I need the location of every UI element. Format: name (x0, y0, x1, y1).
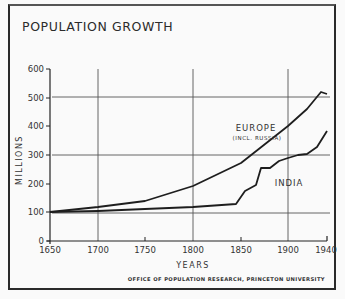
x-tick-label: 1940 (315, 245, 337, 255)
x-tick-label: 1750 (134, 245, 156, 255)
series-europe-line (50, 92, 327, 212)
grid-lines (52, 69, 330, 241)
europe-label: EUROPE (236, 123, 277, 133)
y-tick-label: 500 (28, 93, 44, 103)
x-tick-label: 1700 (87, 245, 109, 255)
x-tick-label: 1850 (230, 245, 252, 255)
y-tick-label: 400 (28, 121, 44, 131)
y-tick-label: 300 (28, 150, 44, 160)
series-india-line (50, 131, 327, 212)
y-tick-label: 200 (28, 179, 44, 189)
axes (47, 69, 327, 244)
line-chart: 600 500 400 300 200 100 0 1650 1700 1750… (0, 0, 345, 299)
x-axis-title: YEARS (175, 261, 210, 270)
y-axis-title: MILLIONS (15, 135, 24, 185)
y-tick-label: 100 (28, 207, 44, 217)
x-tick-label: 1900 (277, 245, 299, 255)
x-tick-label: 1800 (182, 245, 204, 255)
y-tick-label: 600 (28, 64, 44, 74)
india-label: INDIA (275, 178, 304, 188)
europe-sublabel: (INCL. RUSSIA) (232, 135, 281, 141)
x-tick-label: 1650 (39, 245, 61, 255)
source-credit: OFFICE OF POPULATION RESEARCH, PRINCETON… (128, 276, 325, 282)
